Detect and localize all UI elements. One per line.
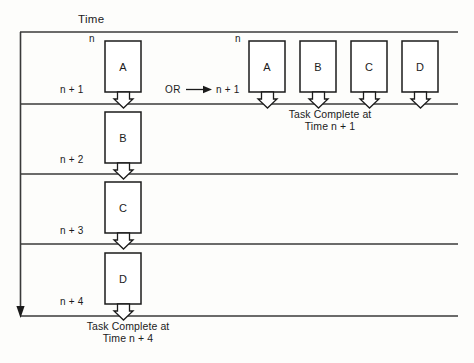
- down-arrow-icon-c-parallel: [360, 92, 379, 108]
- task-label-b-parallel: B: [300, 41, 336, 92]
- caption-parallel-line2: Time n + 1: [265, 120, 395, 132]
- caption-sequential-line2: Time n + 4: [63, 332, 193, 344]
- time-axis: [16, 32, 24, 318]
- tick-label-n-plus-3: n + 3: [60, 225, 84, 237]
- down-arrow-icon-d-parallel: [411, 92, 430, 108]
- tick-label-n-plus-1: n + 1: [60, 84, 84, 96]
- down-arrow-icon-d-sequential: [114, 304, 133, 320]
- down-arrow-icon-c-sequential: [114, 233, 133, 249]
- task-label-a-sequential: A: [105, 41, 141, 92]
- right-tick-label-n-plus-1: n + 1: [216, 84, 240, 96]
- axis-title-time: Time: [78, 13, 104, 26]
- caption-sequential: Task Complete at Time n + 4: [63, 320, 193, 344]
- down-arrow-icon-b-sequential: [114, 163, 133, 179]
- task-label-d-parallel: D: [402, 41, 438, 92]
- task-label-a-parallel: A: [249, 41, 285, 92]
- timeline-diagram: .hline { stroke: #3a3a3a; stroke-width: …: [0, 0, 474, 363]
- band-lines: [20, 32, 458, 316]
- task-label-d-sequential: D: [105, 253, 141, 304]
- caption-parallel-line1: Task Complete at: [265, 108, 395, 120]
- down-arrow-icon-a-sequential: [114, 92, 133, 108]
- down-arrow-icon-b-parallel: [309, 92, 328, 108]
- or-connector: [186, 86, 212, 93]
- or-arrow-head-icon: [203, 86, 212, 93]
- tick-label-n-plus-2: n + 2: [60, 154, 84, 166]
- right-tick-label-n: n: [235, 33, 241, 45]
- or-label: OR: [165, 84, 181, 96]
- down-arrow-icon-a-parallel: [258, 92, 277, 108]
- parallel-arrows: [258, 92, 430, 108]
- task-label-b-sequential: B: [105, 112, 141, 163]
- caption-parallel: Task Complete at Time n + 1: [265, 108, 395, 132]
- tick-label-n-plus-4: n + 4: [60, 296, 84, 308]
- tick-label-n: n: [89, 33, 95, 45]
- task-label-c-parallel: C: [351, 41, 387, 92]
- task-label-c-sequential: C: [105, 182, 141, 233]
- caption-sequential-line1: Task Complete at: [63, 320, 193, 332]
